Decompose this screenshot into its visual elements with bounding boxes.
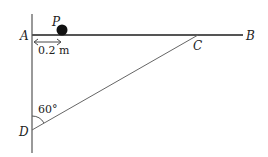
distance-label: 0.2 m [38, 44, 70, 57]
angle-arc [32, 116, 44, 123]
physics-diagram: A B C D P 0.2 m 60° [0, 0, 268, 157]
label-c: C [193, 39, 202, 53]
label-p: P [51, 15, 61, 29]
label-d: D [18, 125, 29, 139]
label-b: B [245, 29, 255, 43]
label-a: A [19, 29, 29, 43]
angle-label: 60° [38, 103, 58, 116]
